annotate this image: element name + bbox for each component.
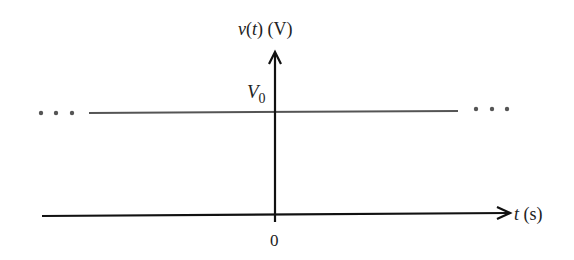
- right-continuation-dots: [474, 107, 509, 111]
- x-axis-label: t (s): [514, 204, 543, 225]
- signal-line: [89, 111, 458, 113]
- origin-label: 0: [270, 231, 279, 250]
- left-continuation-dots: [39, 111, 74, 115]
- y-axis-label: v(t) (V): [238, 19, 293, 40]
- signal-diagram: v(t) (V) V0 0 t (s): [0, 0, 574, 260]
- level-label: V0: [247, 81, 266, 106]
